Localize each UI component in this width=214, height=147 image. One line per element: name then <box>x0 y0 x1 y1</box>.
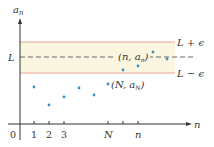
x-axis-arrow-icon <box>186 122 192 126</box>
tick-label-N: N <box>103 129 114 140</box>
point <box>122 69 125 72</box>
limit-label: L <box>7 52 15 63</box>
origin-label: 0 <box>10 129 16 140</box>
y-axis-label: an <box>13 4 24 17</box>
tick-label-1: 1 <box>31 129 37 140</box>
point <box>152 51 155 54</box>
tick-label-n: n <box>135 129 141 140</box>
point <box>63 96 66 99</box>
lower-band-label: L − ϵ <box>176 68 204 79</box>
sequence-diagram: 0 1 2 3 N n n an L L + ϵ L − ϵ (n, an) (… <box>0 0 214 147</box>
point <box>48 104 51 107</box>
y-axis-arrow-icon <box>18 18 22 24</box>
point <box>33 86 36 89</box>
point <box>137 65 140 68</box>
point <box>107 83 110 86</box>
point-label-N: (N, aN) <box>111 79 145 91</box>
x-axis-label: n <box>194 119 200 130</box>
point <box>166 58 169 61</box>
point-label-n: (n, an) <box>118 51 149 63</box>
point <box>93 94 96 97</box>
upper-band-label: L + ϵ <box>176 37 204 48</box>
tick-label-3: 3 <box>61 129 67 140</box>
tick-label-2: 2 <box>46 129 52 140</box>
point <box>78 87 81 90</box>
